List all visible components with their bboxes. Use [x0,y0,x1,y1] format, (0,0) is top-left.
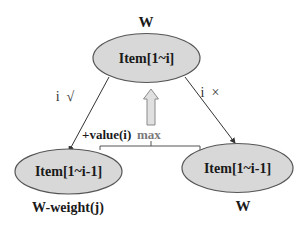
root-node: Item[1~i] [93,34,200,83]
right-child-label: Item[1~i-1] [204,161,271,176]
exclude-edge-label: i × [201,85,220,100]
root-capacity-label: W [139,14,154,30]
right-capacity-label: W [236,198,251,214]
value-plus-label: +value(i) [82,127,131,142]
max-bracket [100,141,200,150]
include-edge-label: i √ [56,89,75,104]
max-label: max [137,127,161,142]
root-node-label: Item[1~i] [119,51,174,66]
left-child-node: Item[1~i-1] [15,149,122,194]
up-arrow-icon [144,89,159,125]
knapsack-diagram: W Item[1~i] i √ i × +value(i) max Item[1… [0,0,305,225]
left-child-label: Item[1~i-1] [35,164,102,179]
left-capacity-label: W-weight(j) [32,200,104,216]
right-child-node: Item[1~i-1] [182,144,293,193]
